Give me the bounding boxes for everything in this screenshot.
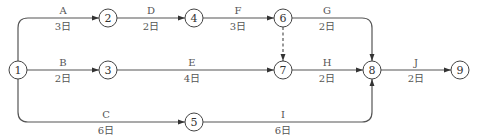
activity-B-duration: 2日 [55, 73, 71, 84]
node-3-label: 3 [105, 64, 112, 77]
node-4: 4 [185, 9, 203, 27]
activity-J-duration: 2日 [408, 73, 424, 84]
activity-A-name: A [58, 5, 67, 16]
node-1-label: 1 [15, 64, 22, 77]
activity-G-duration: 2日 [319, 21, 335, 32]
node-7: 7 [274, 61, 292, 79]
activity-H-duration: 2日 [319, 73, 335, 84]
activity-C-duration: 6日 [98, 125, 114, 136]
node-2-label: 2 [105, 12, 112, 25]
node-9: 9 [451, 61, 469, 79]
activity-E-duration: 4日 [184, 73, 200, 84]
node-9-label: 9 [457, 64, 464, 77]
node-1: 1 [9, 61, 27, 79]
activity-I-duration: 6日 [275, 125, 291, 136]
node-2: 2 [99, 9, 117, 27]
activity-H-name: H [323, 57, 332, 68]
node-8: 8 [363, 61, 381, 79]
node-6-label: 6 [280, 12, 287, 25]
node-3: 3 [99, 61, 117, 79]
node-8-label: 8 [369, 64, 376, 77]
activity-F-name: F [235, 5, 242, 16]
activity-I-arrow [203, 79, 372, 122]
node-5-label: 5 [191, 116, 198, 129]
activity-J-name: J [413, 57, 418, 68]
node-5: 5 [185, 113, 203, 131]
node-6: 6 [274, 9, 292, 27]
activity-G-name: G [323, 5, 331, 16]
activity-I-name: I [281, 109, 285, 120]
activity-E-name: E [188, 57, 195, 68]
activity-D-name: D [147, 5, 155, 16]
activity-F-duration: 3日 [230, 21, 246, 32]
activity-D-duration: 2日 [143, 21, 159, 32]
node-7-label: 7 [280, 64, 287, 77]
activity-C-name: C [102, 109, 110, 120]
node-4-label: 4 [191, 12, 198, 25]
activity-A-duration: 3日 [55, 21, 71, 32]
network-diagram: A 3日 B 2日 C 6日 D 2日 E 4日 F 3日 G 2日 H 2日 … [0, 0, 477, 139]
activity-B-name: B [59, 57, 66, 68]
